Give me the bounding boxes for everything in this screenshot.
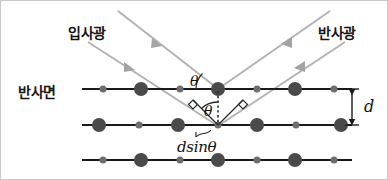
atom-large (250, 118, 264, 132)
incident-ray-group (88, 11, 218, 126)
label-path-difference: dsinθ (177, 138, 216, 156)
atom-small (100, 86, 107, 93)
atom-large (134, 153, 148, 167)
atom-small (254, 86, 261, 93)
incident-ray-1 (118, 11, 217, 88)
label-reflecting-plane: 반사면 (18, 81, 56, 101)
atom-large (288, 153, 302, 167)
label-incident-light: 입사광 (68, 22, 106, 42)
atom-large (211, 82, 225, 96)
atom-large (134, 82, 148, 96)
reflected-ray-2-arrowhead (294, 61, 305, 72)
label-theta-top: θ (190, 73, 198, 89)
atom-small (100, 157, 107, 164)
atom-large (171, 118, 185, 132)
reflected-ray-2 (218, 42, 345, 126)
path-difference-brace (196, 130, 211, 137)
atom-small (177, 157, 184, 164)
atom-small (331, 157, 338, 164)
label-d-spacing: d (364, 97, 374, 116)
atom-large (288, 82, 302, 96)
incident-ray-2 (88, 42, 218, 126)
atom-small (136, 122, 143, 129)
label-reflected-light: 반사광 (318, 22, 356, 42)
atom-small (177, 86, 184, 93)
atom-large (92, 118, 106, 132)
reflected-ray-1 (218, 11, 330, 89)
reflected-ray-1-arrowhead (281, 37, 292, 48)
atom-small (254, 157, 261, 164)
bragg-diagram: 입사광 반사광 반사면 θ θ d dsinθ (0, 0, 388, 180)
spacing-indicator (345, 89, 359, 125)
atom-small (331, 86, 338, 93)
label-theta-bottom: θ (204, 103, 212, 119)
atom-small (293, 122, 300, 129)
